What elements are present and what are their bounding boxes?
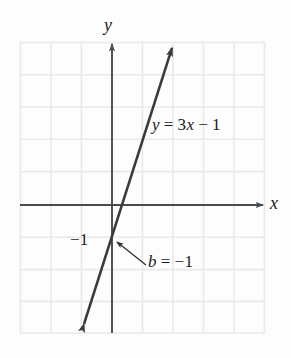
intercept-value: 1 — [80, 230, 89, 249]
grid-lines — [20, 42, 265, 333]
x-axis-label: x — [270, 194, 278, 212]
equation-constant: 1 — [212, 115, 221, 134]
intercept-minus-sign: − — [70, 230, 80, 249]
equation-var-y: y — [152, 115, 160, 134]
y-axis-label-text: y — [104, 15, 112, 35]
b-annotation-equals: = — [161, 252, 171, 271]
b-annotation-value: 1 — [185, 252, 194, 271]
y-axis-label: y — [104, 16, 112, 34]
b-annotation-leader-arrow — [117, 242, 146, 265]
graph-canvas — [0, 0, 291, 358]
equation-minus: − — [198, 115, 208, 134]
b-annotation-var: b — [148, 252, 157, 271]
y-intercept-tick-label: −1 — [70, 231, 89, 248]
equation-equals: = — [164, 115, 174, 134]
plot-line-y-equals-3x-minus-1 — [84, 48, 172, 324]
b-annotation-minus: − — [175, 252, 185, 271]
x-axis-label-text: x — [270, 193, 278, 213]
axes — [20, 44, 263, 333]
equation-label: y = 3x − 1 — [152, 116, 221, 133]
b-annotation-label: b = −1 — [148, 253, 193, 270]
graph-figure: y x y = 3x − 1 −1 b = −1 — [0, 0, 291, 358]
